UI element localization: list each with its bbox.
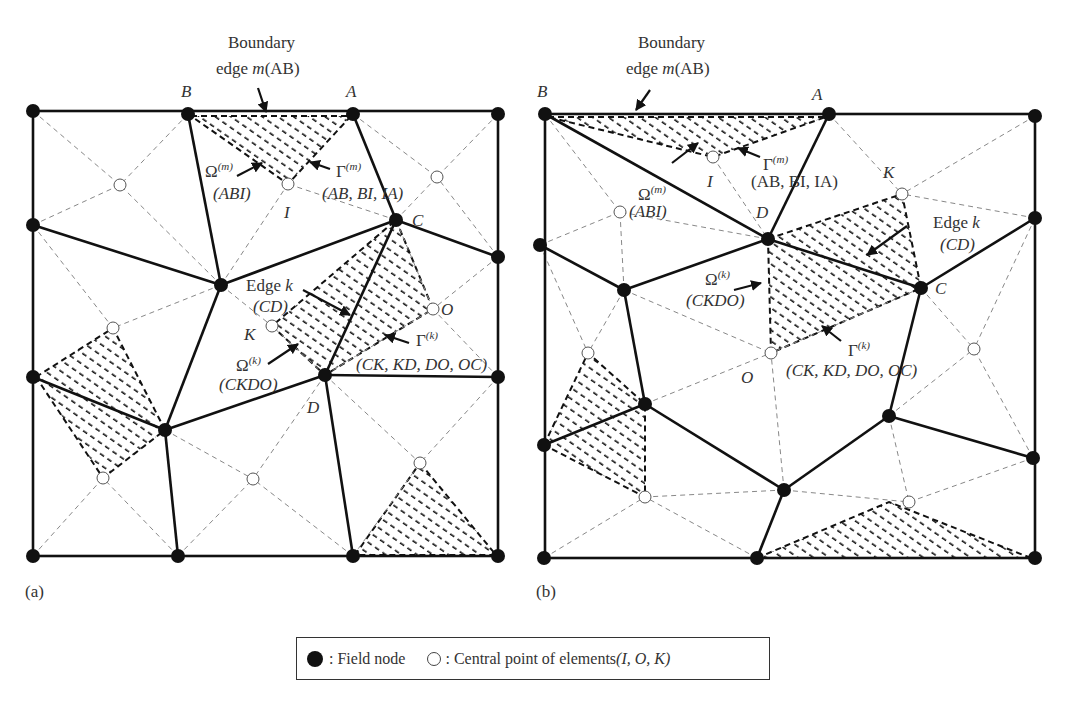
edge-k-label-b: Edge k [933, 213, 980, 232]
legend-box: : Field node : Central point of elements… [296, 637, 770, 680]
gamma-m-label-b: Γ(m) [763, 153, 788, 174]
node-label-a-b: A [811, 85, 823, 104]
edge-k-elements: (CD) [253, 297, 288, 316]
omega-k-elements: (CKDO) [219, 375, 278, 394]
panel-b-tag: (b) [536, 582, 556, 601]
omega-m-label-b: Ω(m) [638, 183, 666, 204]
central-point-label: : Central point of elements [445, 650, 616, 668]
panel-b-title-line1: Boundary [638, 33, 706, 52]
gamma-m-elements-b: (AB, BI, IA) [751, 172, 838, 191]
boundary-volume-bottom-right [355, 463, 496, 555]
field-node-label: : Field node [329, 650, 405, 668]
omega-k-elements-b: (CKDO) [686, 291, 745, 310]
node-label-a: A [345, 82, 357, 101]
omega-m-elements: (ABI) [213, 184, 251, 203]
center-label-i-b: I [706, 172, 714, 191]
panel-b: Boundary edge m(AB) B A C D I K O Ω(m) (… [533, 33, 1042, 601]
field-node-icon [307, 651, 323, 667]
node-label-b-b: B [537, 82, 548, 101]
center-label-o: O [441, 300, 453, 319]
omega-m-elements-b: (ABI) [629, 202, 667, 221]
panel-a-tag: (a) [25, 582, 44, 601]
center-label-k-b: K [882, 163, 896, 182]
panel-a-title-line1: Boundary [228, 33, 296, 52]
gamma-k-elements: (CK, KD, DO, OC) [356, 355, 488, 374]
node-label-d: D [306, 398, 320, 417]
gamma-k-elements-b: (CK, KD, DO, OC) [786, 361, 918, 380]
boundary-volume-bottom-b [757, 502, 1031, 558]
panel-a-title-line2: edge m(AB) [216, 59, 300, 78]
edge-k-elements-b: (CD) [940, 235, 975, 254]
gamma-m-label: Γ(m) [336, 160, 361, 181]
edge-k-label: Edge k [246, 276, 293, 295]
control-volume-omega-k-b [768, 194, 921, 353]
center-label-o-b: O [741, 368, 753, 387]
center-label-i: I [283, 203, 291, 222]
node-label-d-b: D [755, 203, 769, 222]
panel-b-title-line2: edge m(AB) [626, 59, 710, 78]
node-label-b: B [181, 82, 192, 101]
gamma-k-label-b: Γ(k) [848, 339, 870, 360]
finite-volume-mesh-figure: Boundary edge m(AB) B A C D I K O Ω(m) (… [0, 0, 1070, 705]
gamma-m-elements: (AB, BI, IA) [322, 184, 404, 203]
center-label-k: K [243, 325, 257, 344]
omega-k-label: Ω(k) [236, 354, 261, 375]
omega-k-label-b: Ω(k) [705, 268, 730, 289]
gamma-k-label: Γ(k) [416, 329, 438, 350]
control-volume-omega-k [272, 220, 433, 375]
node-label-c-b: C [935, 279, 947, 298]
central-point-icon [427, 652, 441, 666]
node-label-c: C [412, 211, 424, 230]
panel-a: Boundary edge m(AB) B A C D I K O Ω(m) (… [25, 33, 505, 601]
central-point-vars: (I, O, K) [616, 650, 670, 668]
omega-m-label: Ω(m) [205, 160, 233, 181]
